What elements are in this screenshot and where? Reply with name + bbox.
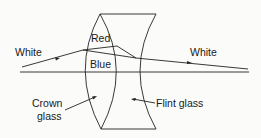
arrow-icon bbox=[55, 58, 60, 61]
emergent-white-ray bbox=[136, 58, 248, 69]
label-white-out: White bbox=[190, 46, 217, 58]
label-crown: Crown bbox=[32, 97, 63, 109]
label-crown-glass: glass bbox=[37, 110, 62, 122]
achromatic-doublet-diagram: White White Red Blue Crown glass Flint g… bbox=[0, 0, 261, 138]
diagram-canvas: White White Red Blue Crown glass Flint g… bbox=[0, 0, 261, 138]
label-flint-glass: Flint glass bbox=[156, 97, 203, 109]
label-white-in: White bbox=[15, 46, 42, 58]
blue-ray bbox=[83, 50, 136, 58]
arrow-icon bbox=[131, 98, 136, 101]
red-ray bbox=[83, 46, 136, 58]
label-blue: Blue bbox=[90, 58, 111, 70]
label-red: Red bbox=[91, 32, 110, 44]
arrow-icon bbox=[92, 96, 97, 100]
